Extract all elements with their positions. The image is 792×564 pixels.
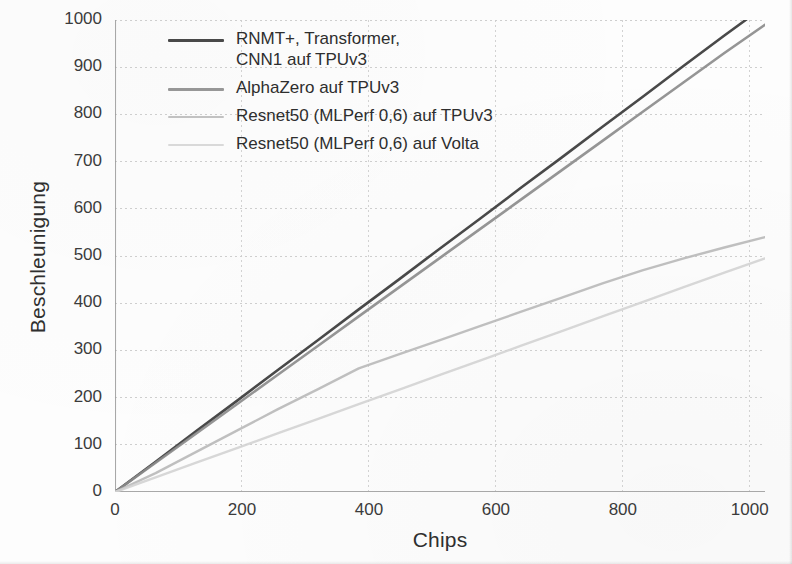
legend-line-swatch — [168, 109, 224, 125]
x-axis-tick-label: 400 — [329, 500, 409, 520]
x-axis-tick-label: 800 — [583, 500, 663, 520]
y-axis-tick-label: 600 — [30, 198, 102, 218]
y-axis-tick-label: 100 — [30, 434, 102, 454]
y-axis-tick-label: 500 — [30, 245, 102, 265]
x-axis-tick-label: 1000 — [710, 500, 790, 520]
y-axis-tick-label: 1000 — [30, 9, 102, 29]
legend-item-label: AlphaZero auf TPUv3 — [236, 77, 399, 98]
legend-line-swatch — [168, 137, 224, 153]
y-axis-tick-label: 0 — [30, 481, 102, 501]
y-axis-tick-label: 800 — [30, 103, 102, 123]
y-axis-tick-label: 900 — [30, 56, 102, 76]
y-axis-tick-label: 200 — [30, 387, 102, 407]
legend-item-label: Resnet50 (MLPerf 0,6) auf TPUv3 — [236, 105, 493, 126]
legend-line-swatch — [168, 81, 224, 97]
legend-item[interactable]: Resnet50 (MLPerf 0,6) auf TPUv3 — [168, 105, 498, 126]
x-axis-tick-label: 0 — [75, 500, 155, 520]
legend-item-label: RNMT+, Transformer, CNN1 auf TPUv3 — [236, 28, 400, 70]
legend-item[interactable]: RNMT+, Transformer, CNN1 auf TPUv3 — [168, 28, 498, 70]
x-axis-title: Chips — [115, 528, 765, 552]
legend-line-swatch — [168, 32, 224, 48]
series-line-4 — [115, 258, 765, 492]
legend-item[interactable]: Resnet50 (MLPerf 0,6) auf Volta — [168, 133, 498, 154]
y-axis-tick-label: 400 — [30, 292, 102, 312]
x-axis-tick-label: 600 — [456, 500, 536, 520]
y-axis-tick-label: 700 — [30, 151, 102, 171]
x-axis-tick-label: 200 — [202, 500, 282, 520]
y-axis-tick-label: 300 — [30, 339, 102, 359]
series-line-3 — [115, 237, 765, 492]
legend-item-label: Resnet50 (MLPerf 0,6) auf Volta — [236, 133, 479, 154]
chart-figure: Beschleunigung Chips 0100200300400500600… — [0, 0, 792, 564]
legend-item[interactable]: AlphaZero auf TPUv3 — [168, 77, 498, 98]
chart-legend: RNMT+, Transformer, CNN1 auf TPUv3AlphaZ… — [168, 28, 498, 161]
